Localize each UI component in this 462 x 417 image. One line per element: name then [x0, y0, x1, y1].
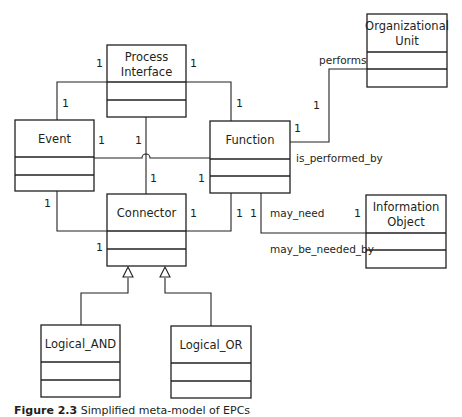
figure-caption: Figure 2.3 Simplified meta-model of EPCs: [14, 404, 250, 417]
class-title: Connector: [117, 206, 177, 220]
multiplicity-label: 1: [313, 99, 320, 112]
class-title: Object: [387, 215, 425, 229]
role-is-performed-by: is_performed_by: [296, 152, 383, 165]
multiplicity-label: 1: [135, 134, 142, 147]
role-performs: performs: [319, 54, 366, 66]
multiplicity-label: 1: [150, 172, 157, 185]
multiplicity-label: 1: [236, 97, 243, 110]
multiplicity-label: 1: [190, 207, 197, 220]
generalization-triangle-icon: [123, 267, 133, 277]
class-logical-or[interactable]: Logical_OR: [171, 326, 251, 398]
edge-process-interface-function: [186, 82, 231, 121]
role-may-be-needed-by: may_be_needed_by: [270, 243, 374, 256]
class-logical-and[interactable]: Logical_AND: [41, 325, 120, 397]
class-title: Function: [226, 133, 275, 147]
multiplicity-label: 1: [190, 57, 197, 70]
class-connector[interactable]: Connector: [107, 194, 186, 266]
edge-event-function: [94, 154, 210, 158]
generalization-triangle-icon: [160, 267, 170, 277]
class-title: Process: [125, 50, 169, 64]
class-process-interface[interactable]: Process Interface: [107, 45, 186, 117]
multiplicity-label: 1: [236, 207, 243, 220]
class-event[interactable]: Event: [15, 120, 94, 191]
class-title: Unit: [395, 34, 419, 48]
multiplicity-label: 1: [96, 241, 103, 254]
class-title: Logical_AND: [45, 337, 117, 351]
edge-event-connector: [57, 191, 107, 231]
multiplicity-label: 1: [198, 172, 205, 185]
class-title: Event: [38, 132, 71, 146]
edge-function-organizational-unit: [290, 69, 367, 142]
multiplicity-label: 1: [98, 134, 105, 147]
class-title: Organizational: [365, 19, 449, 33]
class-function[interactable]: Function: [210, 121, 290, 193]
multiplicity-label: 1: [96, 57, 103, 70]
class-information-object[interactable]: Information Object: [366, 195, 446, 268]
figure-number: Figure 2.3: [14, 404, 77, 417]
role-may-need: may_need: [270, 207, 324, 220]
class-title: Interface: [121, 65, 173, 79]
multiplicity-label: 1: [294, 122, 301, 135]
edge-logical-and-generalization: [81, 278, 128, 325]
edge-logical-or-generalization: [165, 278, 211, 326]
multiplicity-label: 1: [354, 207, 361, 220]
class-title: Information: [373, 200, 440, 214]
figure-caption-text: Simplified meta-model of EPCs: [81, 404, 250, 417]
class-organizational-unit[interactable]: Organizational Unit: [365, 14, 449, 87]
multiplicity-label: 1: [250, 207, 257, 220]
class-title: Logical_OR: [179, 338, 242, 352]
multiplicity-label: 1: [62, 97, 69, 110]
multiplicity-label: 1: [44, 197, 51, 210]
